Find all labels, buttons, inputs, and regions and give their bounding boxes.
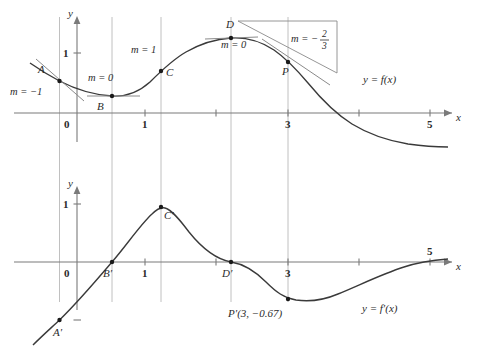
curve-f-prime	[33, 208, 448, 345]
top-x-axis-arrow	[444, 110, 452, 117]
point-d-prime[interactable]	[229, 260, 233, 264]
point-b-prime[interactable]	[110, 260, 114, 264]
top-y-axis-arrow	[74, 16, 81, 24]
bottom-y-tick-label: 1	[63, 198, 69, 210]
bottom-origin-label: 0	[64, 267, 70, 279]
top-y-tick-label: 1	[63, 47, 69, 59]
slope-label-p-denominator: 3	[321, 41, 327, 51]
top-x-tick-label-5: 5	[427, 118, 433, 130]
top-x-tick-label-3: 3	[285, 118, 291, 130]
bottom-panel: A′ B′ C′ D′ P′(3, −0.67) y x 0 1 1 3 5 y…	[14, 177, 461, 345]
top-x-axis-label: x	[455, 111, 461, 123]
point-label-d: D	[225, 18, 234, 30]
slope-label-a: m = −1	[10, 86, 42, 97]
bottom-axes	[14, 188, 452, 310]
point-label-b-prime: B′	[103, 267, 113, 279]
top-points	[57, 36, 290, 98]
point-b[interactable]	[110, 94, 114, 98]
point-label-c: C	[166, 66, 174, 78]
slope-label-p-numerator: 2	[322, 29, 327, 39]
point-label-p: P	[281, 65, 289, 77]
top-origin-label: 0	[64, 118, 70, 130]
slope-label-d: m = 0	[221, 39, 247, 50]
bottom-x-tick-label-1: 1	[142, 267, 148, 279]
bottom-x-tick-label-3: 3	[285, 267, 291, 279]
point-label-a-prime: A′	[52, 326, 63, 338]
figure-canvas: A B C D P m = −1 m = 0 m = 1 m = 0 m = −…	[0, 0, 485, 348]
slope-label-b: m = 0	[88, 72, 114, 83]
bottom-y-axis-label: y	[67, 177, 73, 189]
top-y-axis-label: y	[67, 7, 73, 19]
point-label-b: B	[97, 100, 104, 112]
bottom-points	[57, 205, 290, 322]
top-curve-label: y = f(x)	[362, 73, 396, 86]
bottom-y-axis-arrow	[74, 186, 81, 194]
bottom-x-tick-label-5: 5	[427, 245, 433, 257]
point-label-a: A	[37, 63, 45, 75]
top-panel: A B C D P m = −1 m = 0 m = 1 m = 0 m = −…	[10, 7, 461, 147]
point-a[interactable]	[57, 79, 61, 83]
point-c-prime[interactable]	[159, 205, 163, 209]
slope-label-p-prefix: m = −	[291, 33, 318, 44]
curve-f	[30, 38, 448, 147]
tangent-at-p	[262, 39, 330, 85]
point-p-prime[interactable]	[286, 297, 290, 301]
slope-label-p: m = − 2 3	[291, 29, 329, 51]
point-a-prime[interactable]	[57, 318, 61, 322]
point-label-d-prime: D′	[221, 267, 233, 279]
calculus-figure: A B C D P m = −1 m = 0 m = 1 m = 0 m = −…	[0, 0, 485, 348]
slope-label-c: m = 1	[131, 44, 156, 55]
point-p[interactable]	[286, 60, 290, 64]
point-label-p-prime: P′(3, −0.67)	[227, 307, 282, 320]
point-c[interactable]	[159, 69, 163, 73]
top-x-tick-label-1: 1	[142, 118, 148, 130]
point-label-c-prime: C′	[164, 209, 174, 221]
bottom-curve-label: y = f′(x)	[361, 302, 398, 315]
bottom-x-axis-label: x	[455, 260, 461, 272]
